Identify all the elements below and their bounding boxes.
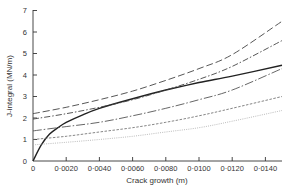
x-tick-label: 0·0080 [154,164,177,173]
y-tick-label: 7 [23,6,27,15]
j-integral-chart: 01234567 00·00200·00400·00600·00800·0100… [0,0,289,190]
series-line [33,41,282,120]
x-tick-label: 0 [31,164,35,173]
x-tick-label: 0·0120 [221,164,244,173]
x-ticks: 00·00200·00400·00600·00800·01000·01200·0… [31,157,277,173]
series-group [33,21,282,161]
x-tick-label: 0·0020 [55,164,78,173]
y-tick-label: 3 [23,92,27,101]
series-line [33,69,282,131]
x-tick-label: 0·0100 [187,164,210,173]
x-axis-label: Crack growth (m) [126,176,188,185]
y-tick-label: 4 [23,71,27,80]
series-line [33,97,282,140]
axes: 01234567 00·00200·00400·00600·00800·0100… [23,6,282,173]
series-line [33,111,282,145]
x-tick-label: 0·0140 [254,164,277,173]
x-tick-label: 0·0040 [88,164,111,173]
y-tick-label: 0 [23,157,27,166]
y-tick-label: 5 [23,49,27,58]
y-tick-label: 6 [23,28,27,37]
x-tick-label: 0·0060 [121,164,144,173]
series-line [33,21,282,113]
y-axis-label: J-integral (MN/m) [5,55,14,117]
y-tick-label: 1 [23,135,27,144]
y-tick-label: 2 [23,114,27,123]
y-ticks: 01234567 [23,6,37,166]
